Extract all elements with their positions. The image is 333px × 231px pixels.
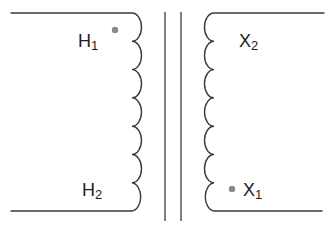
transformer-diagram: H1 H2 X2 X1: [0, 0, 333, 231]
secondary-polarity-dot: [229, 186, 235, 192]
label-h2: H2: [82, 180, 102, 202]
label-h1: H1: [78, 31, 98, 53]
label-x1: X1: [243, 180, 262, 202]
primary-winding: [11, 13, 142, 211]
secondary-winding: [204, 13, 324, 211]
label-x2: X2: [239, 31, 258, 53]
primary-polarity-dot: [112, 27, 118, 33]
